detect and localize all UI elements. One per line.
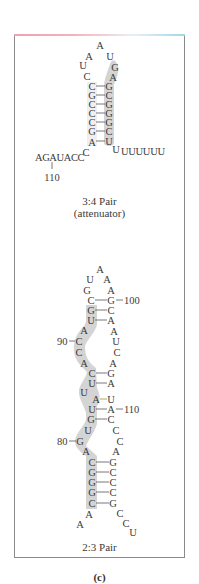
nt: A bbox=[80, 325, 88, 336]
nt: A bbox=[82, 446, 90, 457]
nt-loop: U bbox=[106, 51, 114, 62]
caption-3-4-pair: 3:4 Pair bbox=[0, 195, 199, 207]
nt: U bbox=[86, 274, 94, 285]
position-label-80: 80 bbox=[57, 436, 68, 447]
position-label-100: 100 bbox=[124, 295, 140, 306]
nt: A bbox=[85, 509, 93, 520]
figure-panel-label: (c) bbox=[0, 571, 199, 583]
nt-tail-5prime-sup: C bbox=[82, 147, 89, 158]
nt: C bbox=[88, 498, 95, 509]
nt: U bbox=[87, 315, 95, 326]
nucleotides-3-4: A A U U G C A C G G C C G C G C G G C A … bbox=[35, 40, 165, 183]
nt: A bbox=[76, 519, 84, 530]
nt: C bbox=[75, 347, 82, 358]
nt: G bbox=[88, 487, 96, 498]
position-label-110: 110 bbox=[44, 172, 59, 183]
nt-tail-5prime: AGAUACC bbox=[35, 152, 85, 163]
caption-2-3-pair: 2:3 Pair bbox=[0, 541, 199, 553]
nt: U bbox=[129, 527, 137, 538]
nt: U bbox=[112, 336, 120, 347]
nt-tail-3prime: UUUUUU bbox=[121, 146, 165, 157]
nt-loop: U bbox=[79, 60, 87, 71]
nt-stem-left: G bbox=[88, 126, 96, 137]
nt: A bbox=[107, 315, 115, 326]
nt-loop: A bbox=[96, 40, 104, 51]
nt: C bbox=[109, 487, 116, 498]
nt: C bbox=[75, 336, 82, 347]
nt: A bbox=[107, 378, 115, 389]
position-label-90: 90 bbox=[57, 336, 68, 347]
position-label-110: 110 bbox=[124, 404, 139, 415]
nt: A bbox=[80, 358, 88, 369]
nt: U bbox=[88, 378, 96, 389]
caption-attenuator: (attenuator) bbox=[0, 207, 199, 219]
nt: G bbox=[87, 414, 95, 425]
nucleotides-2-3: A U A G A C G G C U A A A C U C C A A C … bbox=[57, 264, 140, 538]
nt: A bbox=[103, 274, 111, 285]
nt: C bbox=[113, 347, 120, 358]
nt-tail-3prime-first: U bbox=[112, 144, 120, 155]
rna-secondary-structure-diagram: A A U U G C A C G G C C G C G C G G C A … bbox=[0, 0, 199, 584]
nt: U bbox=[84, 425, 92, 436]
nt: A bbox=[112, 446, 120, 457]
nt: C bbox=[112, 425, 119, 436]
nt: U bbox=[80, 387, 88, 398]
nt: C bbox=[107, 414, 114, 425]
